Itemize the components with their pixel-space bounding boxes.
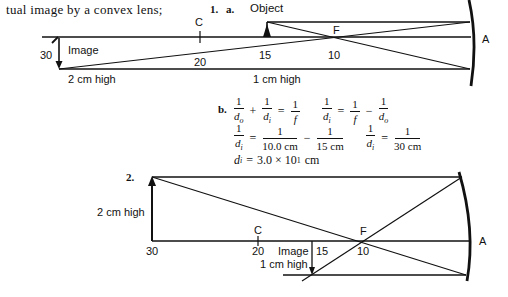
object-arrowhead-1 bbox=[263, 24, 271, 37]
diagram-2 bbox=[148, 172, 471, 281]
tick-10-label-2: 10 bbox=[357, 246, 369, 257]
image-height-label-1: 2 cm high bbox=[68, 74, 116, 85]
concave-mirror-1 bbox=[469, 0, 474, 86]
object-label-1: Object bbox=[250, 3, 283, 15]
c-label-1: C bbox=[195, 17, 203, 28]
tick-15-label-2: 15 bbox=[316, 246, 328, 257]
object-height-label-2: 2 cm high bbox=[97, 207, 145, 218]
f-label-1: F bbox=[333, 25, 340, 36]
intro-text: tual image by a convex lens; bbox=[6, 3, 163, 16]
tick-30-mark-1 bbox=[52, 37, 58, 43]
part-b-label: b. bbox=[218, 104, 227, 115]
concave-mirror-2 bbox=[459, 172, 470, 281]
tick-10-label-1: 10 bbox=[328, 50, 340, 61]
ray-through-f-1 bbox=[267, 22, 470, 69]
a-label-2: A bbox=[479, 236, 486, 247]
ray-reflected-1 bbox=[59, 22, 470, 69]
image-arrowhead-1 bbox=[56, 61, 63, 69]
c-label-2: C bbox=[254, 225, 262, 236]
a-label-1: A bbox=[482, 34, 489, 45]
image-label-2: Image bbox=[278, 246, 309, 257]
image-label-1: Image bbox=[68, 45, 99, 56]
object-height-label-1: 1 cm high bbox=[253, 74, 301, 85]
problem-2-number: 2. bbox=[126, 172, 134, 183]
tick-20-label-1: 20 bbox=[194, 57, 206, 68]
result-equation: di = 3.0 × 101 cm bbox=[234, 153, 319, 168]
tick-30-label-2: 30 bbox=[146, 246, 158, 257]
tick-15-label-1: 15 bbox=[259, 50, 271, 61]
tick-30-label-1: 30 bbox=[40, 50, 52, 61]
tick-20-label-2: 20 bbox=[252, 246, 264, 257]
image-height-label-2: 1 cm high bbox=[260, 259, 308, 270]
problem-1-number: 1. bbox=[210, 4, 218, 15]
f-label-2: F bbox=[360, 226, 367, 237]
ray-through-f-2 bbox=[152, 177, 466, 275]
substitution-equation: 1di = 110.0 cm − 115 cm 1di = 130 cm bbox=[232, 122, 423, 154]
ray-reflected-2 bbox=[302, 177, 462, 281]
part-a-label: a. bbox=[226, 4, 234, 15]
